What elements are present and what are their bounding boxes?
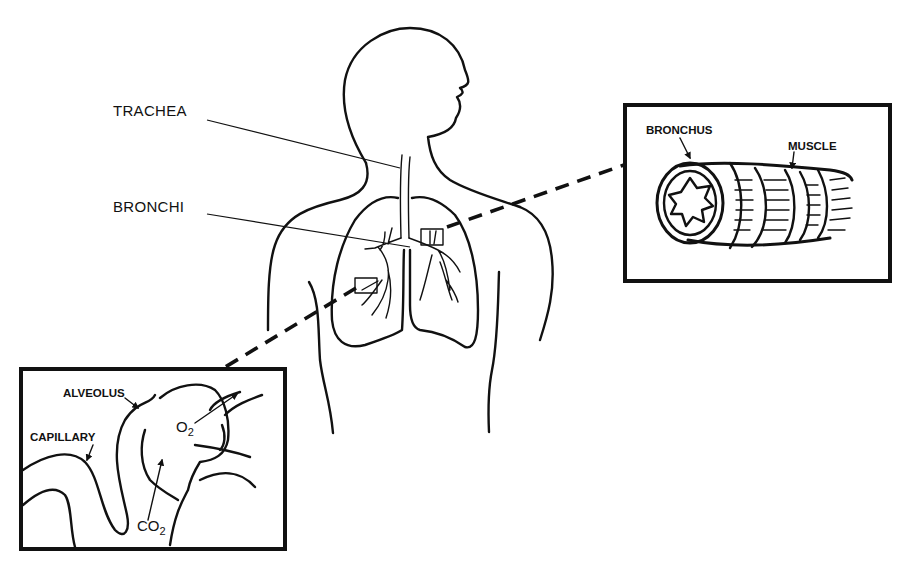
lungs-drawing <box>332 197 478 347</box>
trachea-label: TRACHEA <box>113 102 187 119</box>
alveolus-label: ALVEOLUS <box>63 387 125 399</box>
trachea-leader-line <box>207 120 400 168</box>
trachea-drawing <box>400 155 410 238</box>
bronchi-label: BRONCHI <box>113 198 184 215</box>
capillary-label: CAPILLARY <box>30 431 96 443</box>
bronchi-leader-line <box>207 214 410 247</box>
bronchus-label: BRONCHUS <box>646 124 713 136</box>
alveolus-inset: ALVEOLUS CAPILLARY O2 CO2 <box>21 369 285 549</box>
muscle-label: MUSCLE <box>788 140 837 152</box>
bronchus-inset: BRONCHUS MUSCLE <box>625 105 890 281</box>
alveolus-inset-connector <box>222 288 356 369</box>
respiratory-diagram: TRACHEA BRONCHI BRONCHUS MUSCLE <box>0 0 909 562</box>
